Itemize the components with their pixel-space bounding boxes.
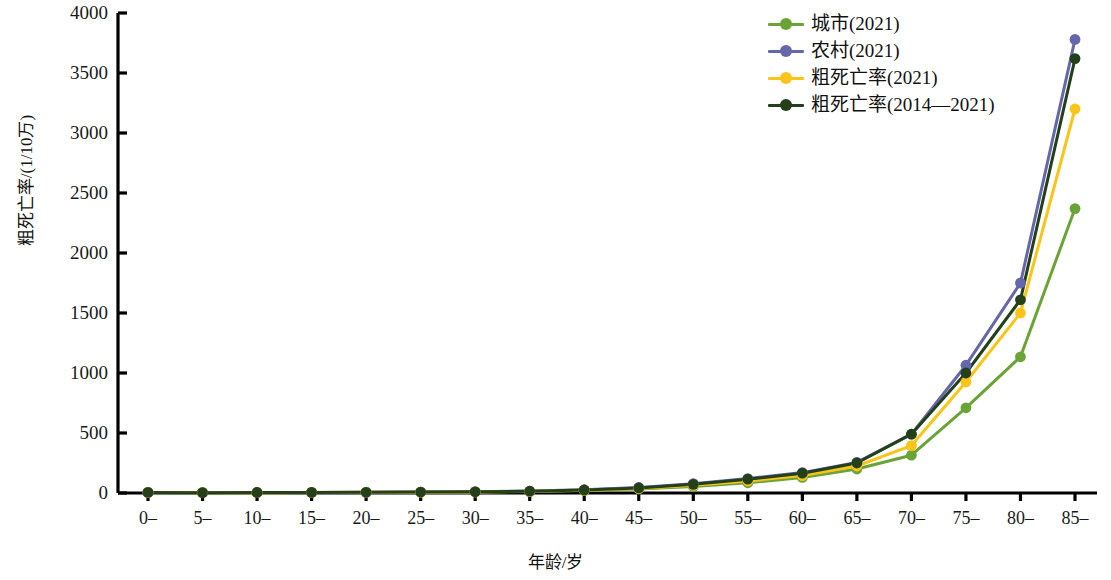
data-point[interactable] bbox=[961, 402, 972, 413]
x-axis-tick-label: 25– bbox=[391, 508, 451, 528]
legend-marker-icon bbox=[768, 17, 804, 31]
data-point[interactable] bbox=[470, 486, 481, 497]
legend-marker-icon bbox=[768, 44, 804, 58]
x-axis-title: 年龄/岁 bbox=[0, 548, 1111, 573]
legend-label: 粗死亡率(2014—2021) bbox=[811, 94, 995, 116]
y-axis-tick-labels: 05001000150020002500300035004000 bbox=[8, 0, 108, 520]
x-axis-tick-label: 0– bbox=[118, 508, 178, 528]
data-point[interactable] bbox=[688, 479, 699, 490]
data-point[interactable] bbox=[361, 487, 372, 498]
y-axis-tick-label: 3500 bbox=[12, 63, 108, 82]
series-line bbox=[148, 59, 1075, 493]
data-point[interactable] bbox=[197, 487, 208, 498]
x-axis-tick-label: 5– bbox=[173, 508, 233, 528]
x-axis-tick-label: 60– bbox=[772, 508, 832, 528]
x-axis-tick-label: 55– bbox=[718, 508, 778, 528]
data-point[interactable] bbox=[906, 450, 917, 461]
y-axis-tick-label: 3000 bbox=[12, 123, 108, 142]
y-axis-tick-label: 1500 bbox=[12, 303, 108, 322]
x-axis-tick-label: 40– bbox=[554, 508, 614, 528]
x-axis-tick-label: 50– bbox=[663, 508, 723, 528]
data-point[interactable] bbox=[1015, 308, 1026, 319]
legend-label: 城市(2021) bbox=[811, 13, 900, 35]
series-line bbox=[148, 209, 1075, 493]
data-point[interactable] bbox=[306, 487, 317, 498]
data-point[interactable] bbox=[415, 487, 426, 498]
y-axis-tick-label: 1000 bbox=[12, 363, 108, 382]
line-chart: 粗死亡率/(1/10万) 050010001500200025003000350… bbox=[0, 0, 1111, 580]
x-axis-tick-label: 35– bbox=[500, 508, 560, 528]
data-point[interactable] bbox=[579, 485, 590, 496]
data-point[interactable] bbox=[742, 474, 753, 485]
legend-marker-icon bbox=[768, 71, 804, 85]
legend-label: 农村(2021) bbox=[811, 40, 900, 62]
data-point[interactable] bbox=[906, 429, 917, 440]
x-axis-tick-label: 15– bbox=[282, 508, 342, 528]
x-axis-tick-label: 65– bbox=[827, 508, 887, 528]
x-axis-tick-label: 20– bbox=[336, 508, 396, 528]
x-axis-tick-label: 70– bbox=[881, 508, 941, 528]
x-axis-tick-label: 30– bbox=[445, 508, 505, 528]
data-point[interactable] bbox=[143, 487, 154, 498]
x-axis-tick-label: 85– bbox=[1045, 508, 1105, 528]
data-point[interactable] bbox=[1015, 278, 1026, 289]
x-axis-tick-label: 75– bbox=[936, 508, 996, 528]
x-axis-tick-labels: 0–5–10–15–20–25–30–35–40–45–50–55–60–65–… bbox=[0, 508, 1111, 542]
y-axis-tick-label: 0 bbox=[12, 483, 108, 502]
y-axis-tick-label: 2500 bbox=[12, 183, 108, 202]
x-axis-tick-label: 80– bbox=[990, 508, 1050, 528]
legend-item[interactable]: 城市(2021) bbox=[768, 12, 1098, 36]
data-point[interactable] bbox=[633, 483, 644, 494]
legend-item[interactable]: 粗死亡率(2021) bbox=[768, 66, 1098, 90]
legend-label: 粗死亡率(2021) bbox=[811, 67, 938, 89]
x-axis-tick-label: 10– bbox=[227, 508, 287, 528]
y-axis-tick-label: 2000 bbox=[12, 243, 108, 262]
y-axis-tick-label: 4000 bbox=[12, 3, 108, 22]
data-point[interactable] bbox=[906, 440, 917, 451]
legend-item[interactable]: 粗死亡率(2014—2021) bbox=[768, 93, 1098, 117]
chart-legend: 城市(2021)农村(2021)粗死亡率(2021)粗死亡率(2014—2021… bbox=[768, 12, 1098, 120]
data-point[interactable] bbox=[1015, 351, 1026, 362]
y-axis-tick-label: 500 bbox=[12, 423, 108, 442]
data-point[interactable] bbox=[961, 368, 972, 379]
data-point[interactable] bbox=[851, 458, 862, 469]
data-point[interactable] bbox=[524, 486, 535, 497]
data-point[interactable] bbox=[252, 487, 263, 498]
data-point[interactable] bbox=[797, 468, 808, 479]
legend-item[interactable]: 农村(2021) bbox=[768, 39, 1098, 63]
legend-marker-icon bbox=[768, 98, 804, 112]
data-point[interactable] bbox=[1070, 203, 1081, 214]
x-axis-tick-label: 45– bbox=[609, 508, 669, 528]
data-point[interactable] bbox=[1015, 294, 1026, 305]
